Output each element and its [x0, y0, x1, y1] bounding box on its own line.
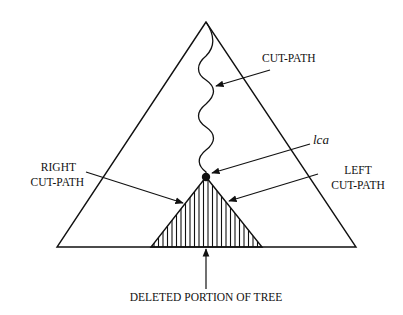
wavy-cut-path	[199, 22, 214, 177]
lca-node	[202, 173, 210, 181]
lca-arrow	[212, 144, 310, 173]
right-cut-path-label-line2: CUT-PATH	[14, 175, 84, 190]
deleted-portion-hatching	[154, 170, 258, 250]
right-cut-path-label-line1: RIGHT	[14, 160, 84, 175]
cut-path-label: CUT-PATH	[262, 51, 315, 66]
lca-label: lca	[313, 132, 329, 147]
left-cut-path-label-line2: CUT-PATH	[322, 178, 394, 193]
right-cut-path-label: RIGHT CUT-PATH	[14, 160, 84, 190]
right-cut-path-arrow	[86, 172, 183, 203]
left-cut-path-label: LEFT CUT-PATH	[322, 163, 394, 193]
diagram-canvas: CUT-PATH lca LEFT CUT-PATH RIGHT CUT-PAT…	[0, 0, 403, 315]
left-cut-path-label-line1: LEFT	[322, 163, 394, 178]
deleted-portion-label: DELETED PORTION OF TREE	[106, 290, 306, 305]
cut-path-arrow	[216, 70, 270, 86]
diagram-graphics	[0, 0, 403, 315]
left-cut-path-arrow	[229, 174, 318, 201]
